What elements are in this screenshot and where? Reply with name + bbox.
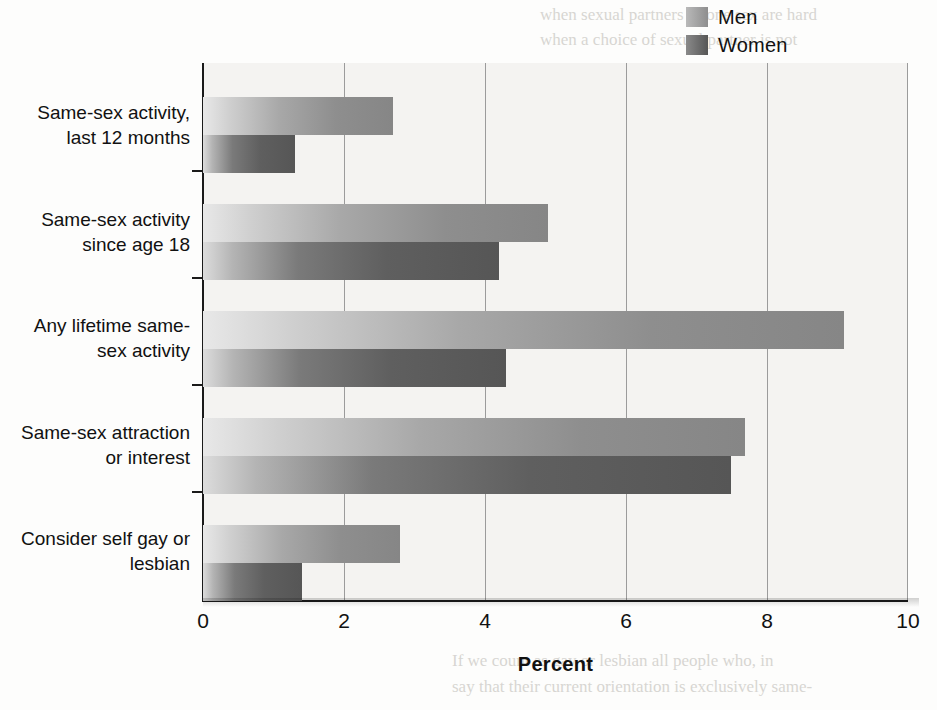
y-axis-tick	[192, 491, 203, 493]
bar-women-3	[203, 456, 731, 494]
x-axis-title: Percent	[203, 653, 908, 676]
bar-men-1	[203, 204, 548, 242]
x-tick-label-2: 2	[338, 609, 350, 633]
legend-swatch-women	[686, 35, 708, 55]
bar-men-3	[203, 418, 745, 456]
category-label-0: Same-sex activity, last 12 months	[0, 100, 190, 150]
x-tick-label-8: 8	[761, 609, 773, 633]
x-tick-label-10: 10	[896, 609, 919, 633]
bar-women-0	[203, 135, 295, 173]
bar-women-1	[203, 242, 499, 280]
gridline-10	[907, 63, 908, 601]
legend-item-women: Women	[686, 34, 788, 56]
bar-men-4	[203, 525, 400, 563]
category-label-line: Same-sex attraction	[0, 420, 190, 445]
legend-swatch-men	[686, 7, 708, 27]
y-axis-tick	[192, 277, 203, 279]
category-label-line: since age 18	[0, 232, 190, 257]
category-axis-labels: Same-sex activity, last 12 months Same-s…	[0, 0, 200, 710]
category-label-line: Same-sex activity,	[0, 100, 190, 125]
bar-women-2	[203, 349, 506, 387]
category-label-3: Same-sex attraction or interest	[0, 420, 190, 470]
category-label-line: or interest	[0, 445, 190, 470]
x-axis-line	[202, 600, 908, 602]
x-tick-label-6: 6	[620, 609, 632, 633]
chart-legend: Men Women	[686, 6, 788, 56]
legend-label-women: Women	[718, 34, 788, 57]
plot-area	[203, 63, 908, 601]
bar-women-4	[203, 563, 302, 601]
category-label-1: Same-sex activity since age 18	[0, 207, 190, 257]
y-axis-tick	[192, 384, 203, 386]
category-label-line: lesbian	[0, 551, 190, 576]
bar-chart-figure: Men Women Same-sex activity, last 12 mon…	[0, 0, 937, 710]
category-label-line: Any lifetime same-	[0, 313, 190, 338]
x-tick-label-0: 0	[197, 609, 209, 633]
category-label-4: Consider self gay or lesbian	[0, 526, 190, 576]
legend-label-men: Men	[718, 6, 758, 29]
legend-item-men: Men	[686, 6, 788, 28]
y-axis-tick	[192, 170, 203, 172]
category-label-line: last 12 months	[0, 125, 190, 150]
category-label-line: Same-sex activity	[0, 207, 190, 232]
bar-men-2	[203, 311, 844, 349]
bar-men-0	[203, 97, 393, 135]
category-label-line: Consider self gay or	[0, 526, 190, 551]
category-label-line: sex activity	[0, 338, 190, 363]
x-tick-label-4: 4	[479, 609, 491, 633]
category-label-2: Any lifetime same- sex activity	[0, 313, 190, 363]
